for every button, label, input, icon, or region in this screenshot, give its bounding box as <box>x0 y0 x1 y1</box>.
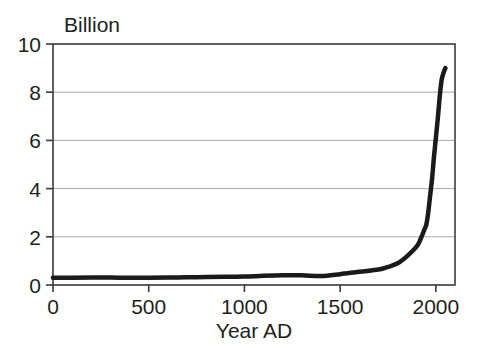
x-axis-title: Year AD <box>216 319 292 342</box>
x-tick-label-1000: 1000 <box>221 295 268 318</box>
y-tick-label-10: 10 <box>18 33 41 56</box>
x-tick-label-0: 0 <box>47 295 59 318</box>
population-growth-chart: 0500100015002000 0246810 Billion Year AD <box>0 0 482 348</box>
x-tick-label-2000: 2000 <box>412 295 459 318</box>
y-tick-label-4: 4 <box>29 178 41 201</box>
x-tick-label-1500: 1500 <box>317 295 364 318</box>
chart-canvas: 0500100015002000 0246810 Billion Year AD <box>0 0 482 348</box>
y-tick-label-2: 2 <box>29 226 41 249</box>
y-tick-label-0: 0 <box>29 274 41 297</box>
y-axis-unit-label: Billion <box>64 13 120 36</box>
y-tick-label-6: 6 <box>29 129 41 152</box>
y-tick-label-8: 8 <box>29 81 41 104</box>
x-tick-label-500: 500 <box>131 295 166 318</box>
